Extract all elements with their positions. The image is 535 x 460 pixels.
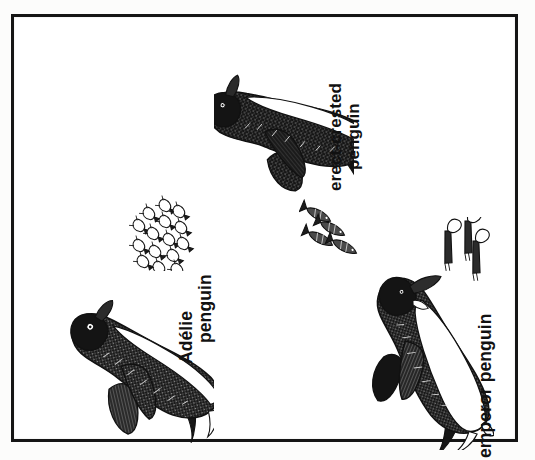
illustration-frame: erect-crested penguin: [11, 14, 518, 442]
label-line-1: erect-crested: [327, 83, 345, 191]
label-line-2: penguin: [345, 83, 363, 170]
illustration-page: erect-crested penguin: [0, 0, 535, 460]
krill-cluster-icon: [129, 195, 201, 271]
squid-group-icon: [439, 217, 519, 293]
fish-school-icon: [299, 199, 373, 261]
label-line-2: penguin: [196, 274, 215, 343]
label-erect-crested-penguin: erect-crested penguin: [327, 83, 364, 191]
label-line-1: Adélie: [177, 274, 196, 364]
label-emperor-penguin: emperor penguin: [476, 314, 495, 458]
label-line-1: emperor penguin: [476, 314, 495, 458]
label-adelie-penguin: Adélie penguin: [177, 274, 215, 364]
